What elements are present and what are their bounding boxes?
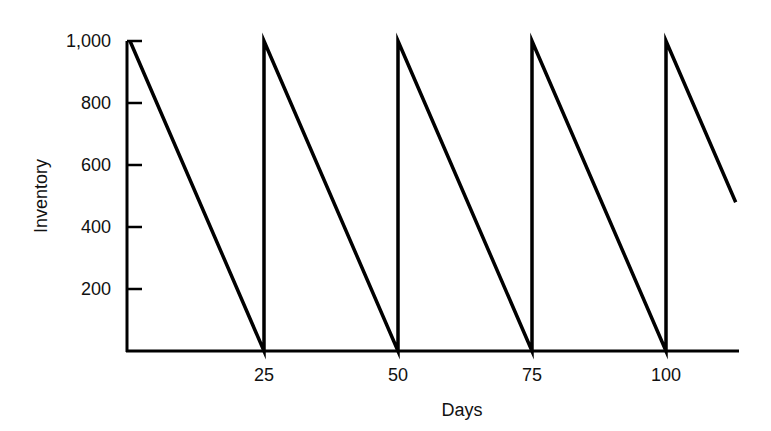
ticks: 2004006008001,000255075100 [66,31,681,385]
x-tick-label: 75 [522,365,542,385]
y-tick-label: 600 [81,155,111,175]
inventory-sawtooth-chart: 2004006008001,000255075100 Days Inventor… [0,0,771,431]
x-tick-label: 100 [651,365,681,385]
y-axis-title: Inventory [31,159,51,233]
x-tick-label: 50 [388,365,408,385]
x-tick-label: 25 [254,365,274,385]
y-tick-label: 1,000 [66,31,111,51]
y-tick-label: 800 [81,93,111,113]
y-tick-label: 400 [81,217,111,237]
data-series [130,41,736,351]
y-tick-label: 200 [81,279,111,299]
x-axis-title: Days [441,400,482,420]
inventory-line [130,41,736,351]
